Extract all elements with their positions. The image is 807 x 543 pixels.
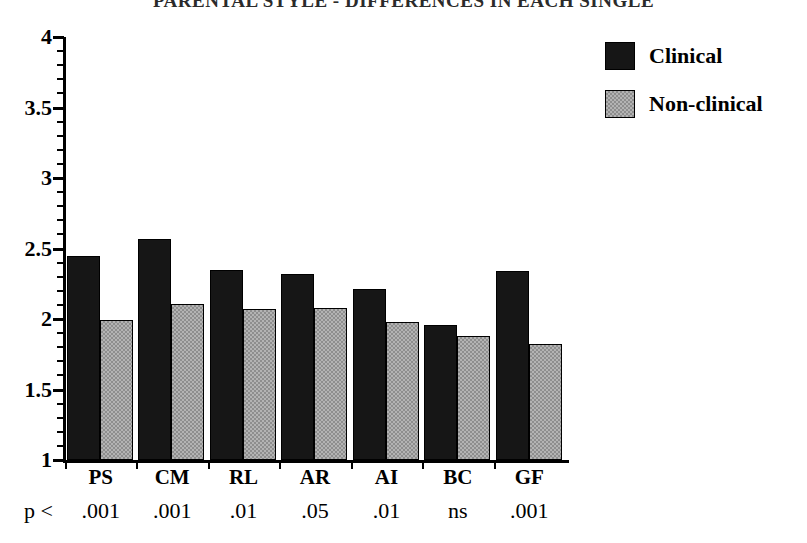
bar-ar-clinical [281,274,314,460]
plot-area [65,37,565,460]
y-axis-minor-tick [57,332,64,334]
y-axis-minor-tick [57,417,64,419]
bar-bc-clinical [424,325,457,460]
y-axis-minor-tick [57,290,64,292]
bar-rl-non-clinical [243,309,276,460]
y-axis-minor-tick [57,403,64,405]
y-axis-major-tick [53,459,64,462]
bar-rl-clinical [210,270,243,460]
y-axis-major-tick [53,248,64,251]
y-axis-minor-tick [57,304,64,306]
y-axis-minor-tick [57,50,64,52]
chart-legend: ClinicalNon-clinical [605,40,805,130]
y-axis-minor-tick [57,64,64,66]
y-axis-minor-tick [57,149,64,151]
y-axis-minor-tick [57,374,64,376]
p-value-ai: .01 [351,498,422,524]
y-axis-tick-label: 2.5 [25,238,53,260]
y-axis-minor-tick [57,262,64,264]
y-axis-minor-tick [57,205,64,207]
y-axis-minor-tick [57,431,64,433]
bar-gf-clinical [496,271,529,460]
y-axis-minor-tick [57,92,64,94]
page-title: PARENTAL STYLE - DIFFERENCES IN EACH SIN… [0,0,807,12]
p-value-bc: ns [422,498,493,524]
y-axis-minor-tick [57,219,64,221]
y-axis-minor-tick [57,233,64,235]
p-value-cm: .001 [136,498,207,524]
y-axis-tick-label: 2 [41,308,52,330]
x-axis-label-ai: AI [351,465,422,489]
y-axis-minor-tick [57,135,64,137]
p-value-rl: .01 [208,498,279,524]
y-axis-major-tick [53,318,64,321]
bar-ai-non-clinical [386,322,419,460]
x-axis-label-bc: BC [422,465,493,489]
y-axis-tick-label: 3 [41,167,52,189]
bar-bc-non-clinical [457,336,490,460]
p-value-row: p < .001.001.01.05.01ns.001 [0,498,620,532]
bar-ps-non-clinical [100,320,133,460]
y-axis-minor-tick [57,346,64,348]
y-axis-minor-tick [57,121,64,123]
bar-ps-clinical [67,256,100,460]
x-axis-category-labels: PSCMRLARAIBCGF [65,465,565,493]
y-axis-minor-tick [57,163,64,165]
y-axis-minor-tick [57,360,64,362]
legend-swatch-clinical [605,42,635,70]
bar-gf-non-clinical [529,344,562,460]
p-value-gf: .001 [494,498,565,524]
y-axis-tick-label: 4 [41,26,52,48]
x-axis-label-cm: CM [136,465,207,489]
bar-ar-non-clinical [314,308,347,460]
p-value-prefix: p < [24,498,53,524]
y-axis-minor-tick [57,191,64,193]
legend-swatch-non-clinical [605,90,635,118]
x-axis-label-gf: GF [494,465,565,489]
y-axis-minor-tick [57,445,64,447]
p-value-ar: .05 [279,498,350,524]
page-title-text: PARENTAL STYLE - DIFFERENCES IN EACH SIN… [0,0,807,10]
y-axis-minor-tick [57,276,64,278]
bar-cm-non-clinical [171,304,204,461]
y-axis-major-tick [53,389,64,392]
y-axis-major-tick [53,107,64,110]
y-axis-tick-label: 3.5 [25,97,53,119]
y-axis-minor-tick [57,78,64,80]
y-axis-major-tick [53,36,64,39]
y-axis-major-tick [53,177,64,180]
bar-ai-clinical [353,289,386,460]
bar-cm-clinical [138,239,171,460]
x-axis-label-ar: AR [279,465,350,489]
legend-label-non-clinical: Non-clinical [649,88,763,120]
y-axis-tick-labels: 43.532.521.51 [0,37,52,460]
legend-label-clinical: Clinical [649,40,722,72]
x-axis-label-rl: RL [208,465,279,489]
y-axis-tick-label: 1 [41,449,52,471]
p-value-ps: .001 [65,498,136,524]
y-axis-tick-label: 1.5 [25,379,53,401]
x-axis-label-ps: PS [65,465,136,489]
